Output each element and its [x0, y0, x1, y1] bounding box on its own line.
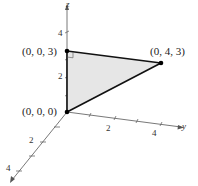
point-0-0-3 — [65, 49, 70, 54]
y-axis — [67, 112, 181, 127]
y-tick-2: 2 — [106, 124, 111, 133]
x-tick-2: 2 — [29, 136, 34, 145]
label-point-0-4-3: (0, 4, 3) — [150, 46, 185, 57]
point-0-4-3 — [159, 61, 164, 66]
x-tick-4: 4 — [6, 164, 11, 173]
triangle-region — [67, 51, 161, 112]
z-axis-label: z — [66, 0, 70, 9]
axes-and-triangle — [0, 0, 198, 186]
diagram-canvas: z y 2 4 2 4 2 4 (0, 0, 3) (0, 4, 3) (0, … — [0, 0, 198, 186]
y-tick-4: 4 — [152, 129, 157, 138]
x-axis — [12, 112, 67, 180]
label-point-origin: (0, 0, 0) — [22, 106, 57, 117]
z-tick-4: 4 — [58, 29, 63, 38]
point-origin — [65, 110, 70, 115]
z-tick-2: 2 — [58, 72, 63, 81]
y-axis-label: y — [182, 122, 186, 131]
label-point-0-0-3: (0, 0, 3) — [22, 46, 57, 57]
